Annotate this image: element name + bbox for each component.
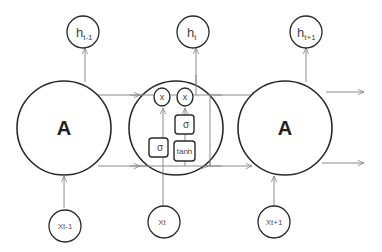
sigma-gate-left-label: σ [157,142,164,153]
tanh-gate-label: tanh [177,147,193,156]
cell-left-label: A [57,117,71,139]
multiply-op-1-label: x [160,92,165,102]
lstm-diagram: A A x x σ σ tanh ht-1 ht [0,0,382,252]
h-prev-sub: t-1 [83,33,93,42]
multiply-op-2-label: x [183,92,188,102]
cell-right-label: A [278,117,292,139]
h-next-base: h [297,25,304,40]
h-next-sub: t+1 [304,33,316,42]
output-node-h-t: ht [177,16,209,48]
h-prev-base: h [76,25,83,40]
h-t-base: h [187,25,194,40]
sigma-gate-top-label: σ [183,119,190,130]
output-node-h-prev: ht-1 [67,16,99,48]
output-node-h-next: ht+1 [290,16,322,48]
input-x-t-label: Xt [158,218,166,227]
input-x-prev-label: Xt-1 [58,222,73,231]
input-x-next-label: Xt+1 [266,218,283,227]
